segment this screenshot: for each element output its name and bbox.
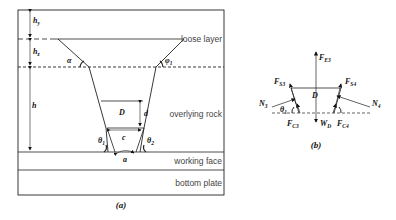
theta1-arc-b <box>292 107 294 113</box>
phi1-label: φ1 <box>165 56 173 66</box>
caption-a: (a) <box>116 200 127 210</box>
block-right <box>334 88 341 113</box>
loose-layer-label: loose layer <box>181 34 222 44</box>
figure-a: hy hz h α φ1 D d c a θ1 θ2 loose layer o… <box>18 10 224 210</box>
d-lower-label: d <box>144 109 149 118</box>
alpha-label: α <box>67 56 72 65</box>
theta1-label-b: θ1 <box>280 105 287 115</box>
working-face-label: working face <box>173 156 222 166</box>
hz-label: hz <box>33 47 40 57</box>
fs4-label: FS4 <box>344 77 356 87</box>
fc3-label: FC3 <box>286 119 299 129</box>
theta2-label: θ2 <box>147 136 154 146</box>
base-left <box>107 128 115 152</box>
fc4-label: FC4 <box>336 119 349 129</box>
base-right <box>136 128 144 152</box>
figure-b: FE3 FS3 FS4 N3 N4 D θ1 FC3 WD FC4 (b) <box>258 52 381 150</box>
theta2-arc-b <box>339 107 341 113</box>
fs4-arrow <box>336 84 341 104</box>
theta1-label: θ1 <box>98 136 105 146</box>
fs3-label: FS3 <box>273 77 285 87</box>
d-upper-label: D <box>118 108 125 117</box>
phi1-arc <box>160 61 163 67</box>
c-label: c <box>122 133 126 142</box>
fe3-label: FE3 <box>318 53 331 63</box>
overlying-rock-label: overlying rock <box>170 109 223 119</box>
a-label: a <box>123 155 127 164</box>
n3-label: N3 <box>258 99 268 109</box>
n4-label: N4 <box>371 99 381 109</box>
caption-b: (b) <box>311 140 322 150</box>
d-label-b: D <box>311 91 318 100</box>
wd-label: WD <box>320 119 331 129</box>
hy-label: hy <box>33 16 40 26</box>
n4-arrow <box>337 96 370 107</box>
bottom-plate-label: bottom plate <box>175 178 222 188</box>
fs3-arrow <box>290 84 296 104</box>
theta2-arc <box>144 145 146 152</box>
theta1-arc <box>104 145 106 152</box>
diagram-canvas: hy hz h α φ1 D d c a θ1 θ2 loose layer o… <box>0 0 396 220</box>
alpha-arc <box>80 61 84 67</box>
h-label: h <box>32 101 37 110</box>
